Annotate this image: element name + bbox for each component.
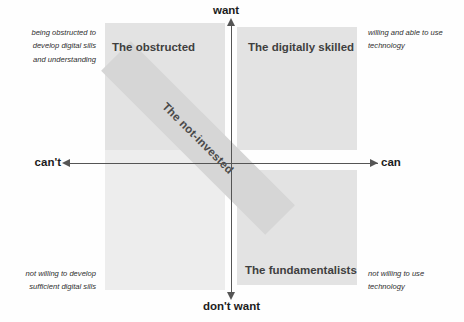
horizontal-axis-line: [68, 163, 378, 164]
axis-label-want: want: [213, 4, 239, 16]
quadrant-title-obstructed: The obstructed: [112, 41, 195, 53]
digital-skills-matrix-diagram: The not-invested want don't want can't c…: [0, 0, 464, 322]
axis-label-can: can: [381, 156, 401, 168]
arrow-up-icon: [227, 18, 235, 26]
annotation-obstructed: being obstructed to develop digital sill…: [31, 26, 96, 66]
arrow-right-icon: [370, 159, 378, 167]
arrow-down-icon: [227, 292, 235, 300]
annotation-digitally-skilled: willing and able to use technology: [368, 26, 443, 53]
quadrant-title-digitally-skilled: The digitally skilled: [248, 41, 354, 53]
axis-label-dont-want: don't want: [203, 300, 260, 312]
annotation-fundamentalists: not willing to use technology: [368, 267, 424, 294]
vertical-axis-line: [231, 24, 232, 298]
annotation-not-invested: not willing to develop sufficient digita…: [26, 267, 97, 294]
axis-label-cant: can't: [35, 156, 66, 168]
quadrant-title-fundamentalists: The fundamentalists: [245, 264, 357, 276]
